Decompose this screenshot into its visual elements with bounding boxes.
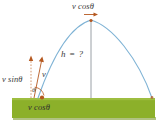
velocity-vector-arrowhead — [39, 57, 44, 63]
ground-horizontal-velocity-label: v cosθ — [28, 103, 50, 112]
ground-bar-highlight — [12, 98, 155, 100]
height-query-label: h = ? — [61, 50, 84, 59]
vertical-velocity-label: v sinθ — [2, 75, 23, 84]
apex-point-marker — [89, 19, 92, 22]
apex-horizontal-arrowhead — [94, 12, 99, 16]
projectile-motion-figure: v cosθ h = ? v sinθ v θ v cosθ — [0, 0, 162, 127]
vertical-component-arrowhead — [29, 56, 33, 62]
apex-horizontal-velocity-label: v cosθ — [72, 2, 94, 11]
angle-label: θ — [32, 87, 36, 94]
trajectory-curve — [38, 20, 152, 98]
landing-point-marker — [151, 96, 154, 99]
diagram-canvas — [0, 0, 162, 127]
velocity-label: v — [42, 70, 46, 79]
launch-point-marker — [40, 95, 44, 99]
